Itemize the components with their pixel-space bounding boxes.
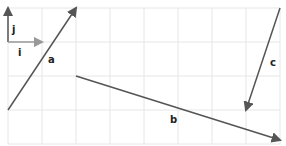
grid — [8, 8, 280, 144]
vector-c-label: c — [270, 57, 276, 68]
vector-a-label: a — [48, 54, 55, 65]
vector-i-label: i — [18, 47, 21, 58]
vector-b-label: b — [170, 114, 177, 125]
vector-diagram: jiabc — [0, 0, 286, 146]
vector-j-label: j — [11, 24, 15, 35]
